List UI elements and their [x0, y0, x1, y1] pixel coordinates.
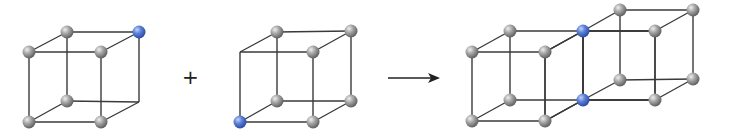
- gray-atom: [539, 115, 552, 128]
- result-cube-right-edge: [545, 31, 583, 52]
- cube-edges: [29, 10, 693, 122]
- result-cube-back-edge: [655, 79, 693, 100]
- plus-sign: +: [182, 67, 199, 87]
- gray-atom: [271, 26, 284, 39]
- gray-atom: [466, 115, 479, 128]
- diagram-canvas: [0, 0, 729, 136]
- gray-atom: [271, 95, 284, 108]
- cube-2-edge: [277, 31, 351, 32]
- cube-combination-diagram: +: [0, 0, 729, 136]
- result-cube-back-edge: [620, 79, 693, 80]
- gray-atom: [687, 4, 700, 17]
- gray-atom: [61, 26, 74, 39]
- gray-atom: [649, 94, 662, 107]
- gray-atom: [95, 46, 108, 59]
- gray-atom: [23, 46, 36, 59]
- gray-atom: [307, 46, 320, 59]
- result-cube-back-edge: [655, 10, 693, 31]
- result-cube-left-edge: [472, 100, 510, 121]
- gray-atom: [504, 94, 517, 107]
- result-cube-right-edge: [545, 100, 583, 121]
- gray-atom: [61, 95, 74, 108]
- gray-atom: [614, 4, 627, 17]
- gray-atom: [23, 116, 36, 129]
- gray-atom: [466, 46, 479, 59]
- gray-atom: [539, 46, 552, 59]
- gray-atom: [345, 25, 358, 38]
- cube-2-edge: [313, 101, 351, 122]
- gray-atom: [687, 73, 700, 86]
- blue-atom: [577, 25, 590, 38]
- cube-1-edge: [67, 101, 139, 102]
- cube-1-edge: [29, 101, 67, 122]
- cube-2-edge: [313, 31, 351, 52]
- gray-atom: [95, 116, 108, 129]
- result-cube-left-edge: [472, 31, 510, 52]
- gray-atom: [649, 25, 662, 38]
- blue-atom: [577, 94, 590, 107]
- gray-atom: [307, 116, 320, 129]
- gray-atom: [614, 74, 627, 87]
- gray-atom: [345, 95, 358, 108]
- blue-atom: [133, 26, 146, 39]
- blue-atom: [234, 116, 247, 129]
- gray-atom: [504, 25, 517, 38]
